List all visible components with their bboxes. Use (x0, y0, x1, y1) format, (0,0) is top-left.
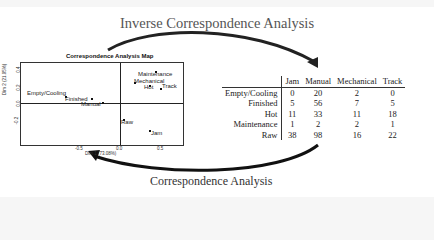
x-axis-label: Dim 1 (73.08%) (85, 151, 116, 156)
table-cell: 5 (380, 98, 406, 109)
x-tick: -0.5 (75, 146, 83, 151)
map-title: Correspondence Analysis Map (66, 53, 153, 59)
table-cell: 1 (380, 119, 406, 130)
table-cell: 2 (302, 119, 334, 130)
table-cell: 0 (282, 87, 302, 98)
contingency-table: Jam Manual Mechanical Track Empty/Coolin… (222, 76, 405, 140)
point-label: Raw (121, 119, 133, 125)
x-tick: 0.0 (116, 146, 122, 151)
table-cell: 18 (380, 109, 406, 120)
table-cell: 2 (334, 87, 380, 98)
row-header: Maintenance (222, 119, 282, 130)
column-header: Mechanical (334, 76, 380, 87)
column-header: Track (380, 76, 406, 87)
y-tick: 0.4 (16, 66, 21, 72)
point-label: Maintenance (138, 71, 172, 77)
table-cell: 98 (302, 130, 334, 141)
point-label: Manual (81, 101, 101, 107)
y-tick: 0.2 (16, 84, 21, 90)
table-row: Maintenance 1 2 2 1 (222, 119, 405, 130)
table-cell: 33 (302, 109, 334, 120)
table-cell: 2 (334, 119, 380, 130)
bottom-arrow-icon (94, 145, 318, 170)
x-tick: 0.5 (157, 146, 163, 151)
table-cell: 20 (302, 87, 334, 98)
table-row: Raw 38 98 16 22 (222, 130, 405, 141)
table-row: Finished 5 56 7 5 (222, 98, 405, 109)
y-axis-label: Dim 2 (21.95%) (2, 64, 7, 95)
point-label: Track (162, 83, 177, 89)
x-zero-line (120, 63, 121, 145)
table-cell: 11 (334, 109, 380, 120)
table-cell: 56 (302, 98, 334, 109)
point-label: Empty/Cooling (27, 90, 66, 96)
column-header: Manual (302, 76, 334, 87)
table-cell: 5 (282, 98, 302, 109)
table-cell: 11 (282, 109, 302, 120)
point-label: Hot (144, 84, 153, 90)
table-corner (222, 76, 282, 87)
point-label: Jam (151, 130, 162, 136)
point-marker (102, 102, 104, 104)
table-cell: 1 (282, 119, 302, 130)
y-tick: -0.2 (14, 117, 19, 125)
table-row: Hot 11 33 11 18 (222, 109, 405, 120)
y-tick: 0.0 (16, 100, 21, 106)
ca-map-plot: Empty/Cooling Finished Manual Maintenanc… (20, 62, 184, 146)
row-header: Hot (222, 109, 282, 120)
row-header: Empty/Cooling (222, 87, 282, 98)
row-header: Raw (222, 130, 282, 141)
point-marker (91, 98, 93, 100)
table-cell: 16 (334, 130, 380, 141)
table-cell: 22 (380, 130, 406, 141)
table-cell: 38 (282, 130, 302, 141)
column-header: Jam (282, 76, 302, 87)
row-header: Finished (222, 98, 282, 109)
table-cell: 7 (334, 98, 380, 109)
table-row: Empty/Cooling 0 20 2 0 (222, 87, 405, 98)
table-cell: 0 (380, 87, 406, 98)
